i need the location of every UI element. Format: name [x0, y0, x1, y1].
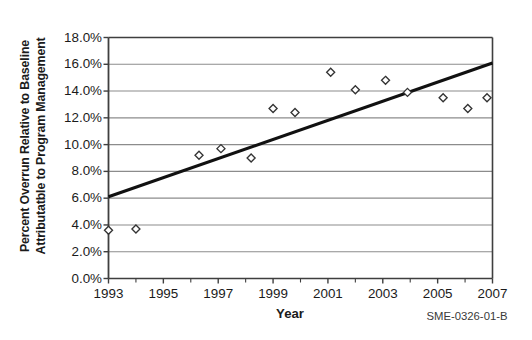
data-point-marker	[483, 94, 491, 102]
plot-frame	[109, 38, 493, 279]
data-point-marker	[382, 76, 390, 84]
x-axis-tick-label: 1997	[188, 283, 248, 305]
data-point-marker	[327, 68, 335, 76]
data-point-marker	[217, 145, 225, 153]
x-axis-tick-label: 2005	[408, 283, 468, 305]
data-point-marker	[439, 94, 447, 102]
x-axis-title: Year	[180, 306, 400, 321]
source-note: SME-0326-01-B	[404, 310, 530, 322]
data-point-marker	[291, 108, 299, 116]
data-point-marker	[195, 151, 203, 159]
x-axis-tick-labels: 19931995199719992001200320052007	[0, 283, 532, 305]
x-axis-tick-label: 1995	[133, 283, 193, 305]
x-axis-tick-label: 1993	[79, 283, 139, 305]
data-markers	[105, 68, 492, 234]
data-point-marker	[464, 104, 472, 112]
data-point-marker	[269, 104, 277, 112]
data-point-marker	[247, 154, 255, 162]
data-point-marker	[105, 226, 113, 234]
x-axis-tick-label: 2001	[298, 283, 358, 305]
gridlines	[109, 64, 493, 251]
x-axis-tick-label: 1999	[243, 283, 303, 305]
trendline-segment	[109, 63, 493, 197]
chart-figure: Percent Overrun Relative to Baseline Att…	[0, 0, 532, 340]
data-point-marker	[351, 86, 359, 94]
x-axis-tick-label: 2007	[463, 283, 523, 305]
data-point-marker	[132, 225, 140, 233]
x-axis-tick-label: 2003	[353, 283, 413, 305]
trendline	[109, 63, 493, 197]
